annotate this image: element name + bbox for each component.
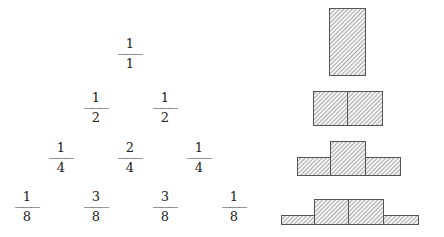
hatched-bar [348,92,383,126]
histogram-row [314,92,383,126]
histogram-row [282,200,419,225]
hatched-bar [384,216,419,225]
hatched-bar [314,92,348,126]
histogram-row [298,142,401,176]
hatched-bar [331,142,366,176]
hatched-bar [282,216,315,225]
histogram-row [330,9,366,76]
hatched-bar [330,9,366,76]
hatched-bar [366,158,401,176]
hatched-bar [349,200,384,225]
histogram-diagram [0,0,444,237]
hatched-bar [315,200,349,225]
hatched-bar [298,158,331,176]
